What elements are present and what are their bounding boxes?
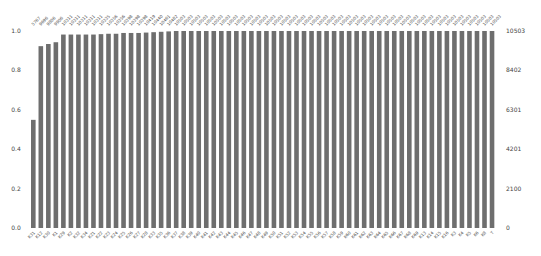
- bar: [392, 31, 397, 228]
- bar: [467, 31, 472, 228]
- bar: [61, 35, 66, 228]
- bar: [482, 31, 487, 228]
- right-axis-tick-label: 8402: [506, 66, 521, 73]
- bar: [219, 31, 224, 228]
- bar: [242, 31, 247, 228]
- right-axis-tick-label: 0: [506, 224, 510, 231]
- right-axis-tick-label: 10503: [506, 27, 525, 34]
- left-axis-tick-label: 0.8: [11, 66, 21, 73]
- bar: [84, 35, 89, 228]
- column-label: K8: [480, 230, 488, 238]
- bar: [399, 31, 404, 228]
- missingno-bar-chart: 0.00.20.40.60.81.0 021004201630184021050…: [0, 0, 541, 256]
- bar: [339, 31, 344, 228]
- right-axis-tick-label: 2100: [506, 185, 521, 192]
- left-y-axis: 0.00.20.40.60.81.0: [11, 27, 21, 231]
- bar: [106, 34, 111, 228]
- left-axis-tick-label: 1.0: [11, 27, 21, 34]
- bar: [151, 32, 156, 228]
- bar: [121, 33, 126, 228]
- bar: [272, 31, 277, 228]
- bar: [287, 31, 292, 228]
- bar: [354, 31, 359, 228]
- bar: [317, 31, 322, 228]
- bar: [415, 31, 420, 228]
- bar: [46, 44, 51, 228]
- bar: [136, 33, 141, 228]
- column-label: K30: [42, 230, 51, 239]
- bar: [460, 31, 465, 228]
- bar: [475, 31, 480, 228]
- bar: [430, 31, 435, 228]
- bar: [174, 31, 179, 228]
- bar: [211, 31, 216, 228]
- bar: [39, 46, 44, 228]
- right-y-axis: 0210042016301840210503: [506, 27, 525, 231]
- count-labels-top: 5767969698069906103111031110311103111031…: [30, 14, 502, 27]
- bar: [422, 31, 427, 228]
- left-axis-tick-label: 0.6: [11, 106, 21, 113]
- bar: [452, 31, 457, 228]
- bar: [407, 31, 412, 228]
- bar: [279, 31, 284, 228]
- bar: [181, 31, 186, 228]
- bar: [490, 31, 495, 228]
- column-labels-bottom: K31K12K30K1K29K2K32K34K21K22K23K24K25K26…: [27, 230, 495, 240]
- bar: [166, 31, 171, 228]
- right-axis-tick-label: 4201: [506, 145, 521, 152]
- bar: [264, 31, 269, 228]
- bar: [234, 31, 239, 228]
- bar: [347, 31, 352, 228]
- bar: [369, 31, 374, 228]
- bar: [189, 31, 194, 228]
- column-label: K29: [57, 230, 66, 239]
- bar: [384, 31, 389, 228]
- bar: [445, 31, 450, 228]
- left-axis-tick-label: 0.4: [11, 145, 21, 152]
- bar: [54, 42, 59, 228]
- left-axis-tick-label: 0.0: [11, 224, 21, 231]
- bar: [362, 31, 367, 228]
- bar: [309, 31, 314, 228]
- bar: [144, 33, 149, 228]
- bar: [69, 35, 74, 228]
- bar: [227, 31, 232, 228]
- bar: [129, 33, 134, 228]
- bar: [196, 31, 201, 228]
- bar: [159, 32, 164, 228]
- bar: [437, 31, 442, 228]
- bar: [76, 35, 81, 228]
- bar: [91, 35, 96, 228]
- bar: [294, 31, 299, 228]
- column-label: T: [489, 230, 495, 236]
- bar: [332, 31, 337, 228]
- bar: [114, 34, 119, 228]
- bar: [99, 34, 104, 228]
- bar: [204, 31, 209, 228]
- bar: [377, 31, 382, 228]
- bars: [31, 31, 494, 228]
- bar: [257, 31, 262, 228]
- bar: [249, 31, 254, 228]
- left-axis-tick-label: 0.2: [11, 185, 21, 192]
- column-label: K16: [440, 230, 449, 239]
- bar: [324, 31, 329, 228]
- right-axis-tick-label: 6301: [506, 106, 521, 113]
- bar: [302, 31, 307, 228]
- bar: [31, 120, 36, 228]
